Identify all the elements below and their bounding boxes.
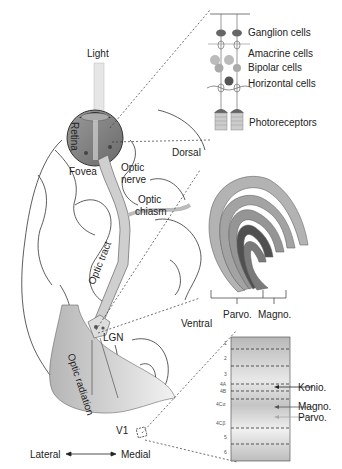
optic-chiasm-label-2: chiasm — [135, 206, 167, 217]
bipolar-cells-label: Bipolar cells — [248, 62, 302, 73]
light-label: Light — [87, 48, 109, 59]
v1-layer-1: 1 — [224, 340, 227, 346]
retina-label: Retina — [69, 122, 80, 151]
medial-label: Medial — [121, 449, 150, 460]
v1-layer-4c-alpha: 4Cα — [216, 401, 225, 407]
dorsal-label: Dorsal — [172, 147, 201, 158]
v1-layer-4b: 4B — [220, 388, 226, 394]
v1-parvo-label: Parvo. — [298, 412, 327, 423]
v1-layer-4a: 4A — [220, 381, 226, 387]
v1-layer-3: 3 — [224, 371, 227, 377]
optic-nerve-label-2: nerve — [121, 174, 146, 185]
v1-layer-2: 2 — [224, 355, 227, 361]
ganglion-cells-label: Ganglion cells — [248, 27, 311, 38]
optic-chiasm-label-1: Optic — [138, 194, 161, 205]
lateral-medial-arrow — [66, 452, 116, 456]
v1-layer-6: 6 — [224, 449, 227, 455]
lgn-scale-bracket — [211, 290, 286, 304]
lateral-label: Lateral — [30, 449, 61, 460]
amacrine-cells-label: Amacrine cells — [248, 48, 313, 59]
horizontal-cells-label: Horizontal cells — [248, 78, 316, 89]
ventral-label: Ventral — [181, 318, 212, 329]
v1-magno-label: Magno. — [298, 401, 331, 412]
lgn-label: LGN — [103, 332, 124, 343]
v1-layer-5: 5 — [224, 434, 227, 440]
konio-label: Konio. — [298, 382, 326, 393]
retina-inset — [207, 14, 252, 130]
optic-nerve-label-1: Optic — [121, 162, 144, 173]
v1-layer-4c-beta: 4Cβ — [216, 420, 225, 426]
photoreceptors-label: Photoreceptors — [249, 117, 317, 128]
fovea-label: Fovea — [69, 166, 97, 177]
magno-label: Magno. — [258, 309, 291, 320]
v1-label: V1 — [116, 425, 128, 436]
parvo-label: Parvo. — [223, 309, 252, 320]
lgn-layers-inset — [209, 176, 308, 292]
